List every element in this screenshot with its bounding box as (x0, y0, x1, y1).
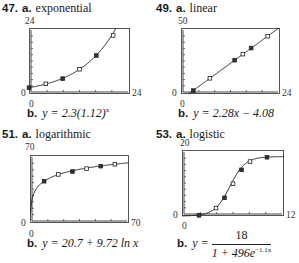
panel-51-equation: b.y = 20.7 + 9.72 ln x (27, 236, 138, 251)
data-point (208, 76, 212, 80)
exponential-plot (29, 28, 130, 94)
data-point (27, 86, 31, 90)
data-point (44, 82, 48, 86)
data-point (113, 162, 117, 166)
model-label: linear (190, 1, 217, 15)
equation-exponent: x (106, 106, 110, 114)
y-min-label: 0 (21, 88, 26, 98)
data-point (248, 160, 252, 164)
data-point (192, 89, 196, 93)
x-max-label: 70 (131, 218, 141, 228)
part-a-label: a. (22, 2, 32, 14)
data-point (231, 182, 235, 186)
equation-text: y = 20.7 + 9.72 ln x (42, 236, 138, 250)
data-point (266, 34, 270, 38)
equation-text: y = 2.3(1.12) (42, 106, 105, 120)
data-point (214, 206, 218, 210)
data-point (42, 179, 46, 183)
y-min-label: 0 (173, 210, 178, 220)
data-point (265, 155, 269, 159)
linear-plot (181, 28, 280, 94)
panel-49-equation: b.y = 2.28x − 4.08 (178, 106, 274, 121)
data-point (223, 196, 227, 200)
logarithmic-plot (30, 155, 129, 223)
problem-number: 53. (156, 128, 172, 140)
model-label: logarithmic (36, 127, 91, 141)
panel-47-equation: b.y = 2.3(1.12)x (27, 106, 109, 121)
equation-lhs: y = (192, 236, 208, 250)
data-point (71, 170, 75, 174)
y-max-label: 24 (25, 16, 35, 26)
data-point (85, 167, 89, 171)
part-b-label: b. (178, 107, 188, 119)
data-point (99, 164, 103, 168)
denominator-base: 1 + 496e (212, 246, 255, 260)
problem-number: 47. (2, 2, 18, 14)
part-b-label: b. (177, 237, 187, 249)
panel-49-header: 49.a.linear (156, 1, 217, 16)
data-point (249, 46, 253, 50)
x-max-label: 24 (132, 88, 142, 98)
part-a-label: a. (176, 2, 186, 14)
data-point (241, 52, 245, 56)
problem-number: 51. (2, 128, 18, 140)
x-max-label: 12 (286, 210, 296, 220)
data-point (61, 77, 65, 81)
problem-number: 49. (156, 2, 172, 14)
numerator: 18 (212, 228, 272, 245)
panel-53-equation: b.y = 18 1 + 496e−1.1x (177, 228, 271, 261)
equation-fraction: 18 1 + 496e−1.1x (212, 228, 272, 261)
y-min-label: 0 (21, 218, 26, 228)
model-label: logistic (190, 127, 225, 141)
data-point (95, 54, 99, 58)
y-max-label: 20 (180, 138, 190, 148)
data-point (233, 58, 237, 62)
model-label: exponential (36, 1, 92, 15)
logistic-plot (182, 150, 284, 216)
data-point (56, 173, 60, 177)
x-max-label: 24 (282, 88, 292, 98)
data-point (111, 34, 115, 38)
part-b-label: b. (27, 107, 37, 119)
y-max-label: 70 (25, 142, 35, 152)
equation-text: y = 2.28x − 4.08 (193, 106, 274, 120)
part-b-label: b. (27, 237, 37, 249)
denominator: 1 + 496e−1.1x (212, 245, 272, 261)
denominator-exponent: −1.1x (255, 246, 271, 254)
part-a-label: a. (22, 128, 32, 140)
panel-51-header: 51.a.logarithmic (2, 127, 91, 142)
data-point (197, 214, 201, 218)
data-point (78, 67, 82, 71)
data-point (240, 168, 244, 172)
y-min-label: 0 (172, 88, 177, 98)
panel-47-header: 47.a.exponential (2, 1, 92, 16)
y-max-label: 50 (178, 16, 188, 26)
panel-53-header: 53.a.logistic (156, 127, 225, 142)
